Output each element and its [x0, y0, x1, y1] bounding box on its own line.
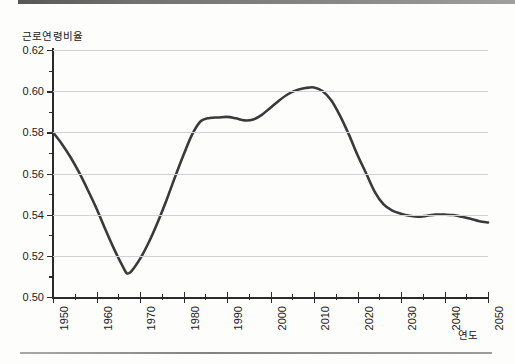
line-chart: 근로연령비율 연도 0.500.520.540.560.580.600.62 1…: [0, 0, 515, 364]
series-line-svg: [0, 0, 515, 364]
gridline: [53, 91, 488, 92]
gridline: [53, 132, 488, 133]
series-line: [53, 87, 488, 273]
gridline: [53, 215, 488, 216]
gridline: [53, 50, 488, 51]
gridline: [53, 256, 488, 257]
gridline: [53, 174, 488, 175]
